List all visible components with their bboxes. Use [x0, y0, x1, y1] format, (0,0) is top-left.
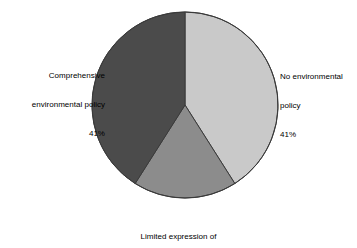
slice-label-line-1: No environmental — [280, 72, 343, 82]
slice-label-comprehensive-environmental-policy: Comprehensive environmental policy 41% — [32, 52, 105, 158]
slice-label-line-1: Comprehensive — [32, 71, 105, 81]
slice-label-no-environmental-policy: No environmental policy 41% — [280, 53, 343, 159]
pie-chart-figure: Comprehensive environmental policy 41% N… — [0, 0, 357, 248]
slice-label-line-1: Limited expression of — [0, 232, 357, 242]
slice-label-line-2: environmental policy — [32, 100, 105, 110]
slice-label-value: 41% — [280, 130, 343, 140]
slice-label-value: 41% — [32, 129, 105, 139]
slice-label-limited-expression-of-environmental-policy: Limited expression of environmental poli… — [0, 213, 357, 248]
pie-slice-group — [92, 12, 278, 198]
slice-label-line-2: policy — [280, 101, 343, 111]
